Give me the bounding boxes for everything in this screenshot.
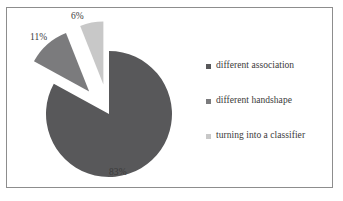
pie-chart-figure: 83% 11% 6% different association differe… (0, 0, 343, 201)
slice-value-label-different-handshape: 11% (30, 33, 47, 43)
legend-item-label: turning into a classifier (216, 131, 305, 141)
legend-item-turning-into-a-classifier[interactable]: turning into a classifier (206, 130, 334, 142)
legend-square-marker-icon (206, 99, 211, 104)
legend-square-marker-icon (206, 134, 211, 139)
legend-square-marker-icon (206, 64, 211, 69)
legend-item-different-handshape[interactable]: different handshape (206, 95, 334, 107)
legend-item-label: different handshape (216, 96, 292, 106)
pie-slice-turning-into-a-classifier[interactable] (80, 22, 103, 85)
pie-plot-area: 83% 11% 6% (8, 9, 204, 187)
slice-value-label-turning-into-a-classifier: 6% (71, 12, 84, 22)
chart-legend: different association different handshap… (206, 60, 334, 142)
legend-item-different-association[interactable]: different association (206, 60, 334, 72)
slice-value-label-different-association: 83% (109, 168, 127, 178)
legend-item-label: different association (216, 61, 294, 71)
